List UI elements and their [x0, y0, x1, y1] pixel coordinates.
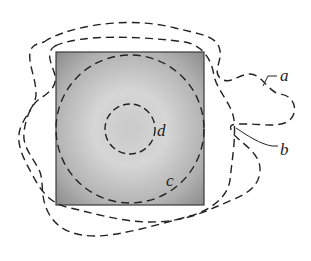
- leader-a: [263, 76, 277, 86]
- label-d: d: [157, 121, 166, 140]
- label-b: b: [280, 140, 289, 159]
- diagram-canvas: a b c d: [0, 0, 311, 261]
- label-a: a: [280, 66, 289, 85]
- label-c: c: [166, 171, 174, 190]
- leader-b: [236, 128, 278, 146]
